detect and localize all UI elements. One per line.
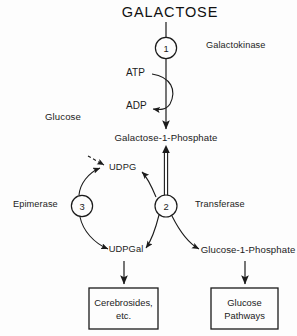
cofactor-label-adp: ADP xyxy=(126,101,147,112)
metabolite-label-galactose-1-phosphate: Galactose-1-Phosphate xyxy=(115,133,218,143)
outcome-box-cerebrosides-line1: Cerebrosides, xyxy=(89,297,158,310)
edge-step2-to-udpgal xyxy=(146,215,159,248)
edge-dashed-into-udpg xyxy=(88,156,104,165)
cofactor-label-atp: ATP xyxy=(126,68,145,79)
edge-step3-to-udpg xyxy=(79,168,100,195)
enzyme-label-galactokinase: Galactokinase xyxy=(206,41,266,51)
metabolite-label-udpgal: UDPGal xyxy=(109,245,144,255)
metabolite-label-glucose: Glucose xyxy=(45,112,81,122)
outcome-box-glucose-pathways-line2: Pathways xyxy=(211,310,278,323)
outcome-box-cerebrosides-text: Cerebrosides, etc. xyxy=(89,297,158,322)
enzyme-label-epimerase: Epimerase xyxy=(13,200,58,210)
edge-step3-to-udpgal xyxy=(80,217,108,249)
enzyme-node-1-label: 1 xyxy=(163,43,168,54)
edge-step2-to-udpg xyxy=(142,172,156,197)
edge-step2-to-glc1p xyxy=(172,216,199,249)
metabolite-label-udpg: UDPG xyxy=(109,163,136,173)
outcome-box-glucose-pathways-line1: Glucose xyxy=(211,297,278,310)
outcome-box-glucose-pathways-text: Glucose Pathways xyxy=(211,297,278,322)
edge-atp-to-adp-arc xyxy=(152,74,173,109)
page-title: GALACTOSE xyxy=(122,5,218,20)
metabolite-label-glucose-1-phosphate: Glucose-1-Phosphate xyxy=(201,245,296,255)
enzyme-label-transferase: Transferase xyxy=(195,200,245,210)
enzyme-node-3-label: 3 xyxy=(79,201,84,212)
enzyme-node-2-label: 2 xyxy=(163,201,168,212)
arrowhead-step2-to-gal1p xyxy=(162,145,170,153)
galactose-pathway-diagram: GALACTOSE Galactokinase 1 ATP ADP Glucos… xyxy=(0,0,297,336)
outcome-box-cerebrosides-line2: etc. xyxy=(89,310,158,323)
